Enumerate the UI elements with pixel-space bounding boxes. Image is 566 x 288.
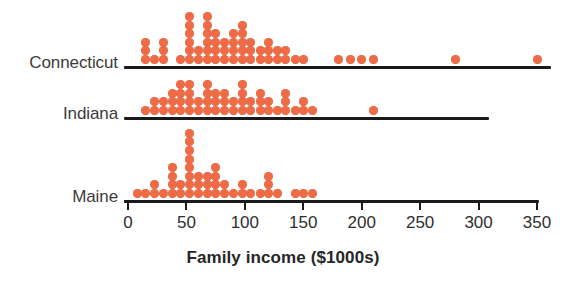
data-point [308, 106, 317, 115]
data-point [281, 46, 290, 55]
data-point [246, 97, 255, 106]
row-label-connecticut: Connecticut [29, 53, 118, 73]
axis-line-connecticut [124, 66, 551, 69]
data-point [159, 189, 168, 198]
x-tick [361, 202, 363, 210]
data-point [281, 55, 290, 64]
data-point [281, 89, 290, 98]
x-tick-label: 150 [289, 213, 317, 233]
x-tick-label: 250 [406, 213, 434, 233]
data-point [211, 180, 220, 189]
data-point [238, 21, 247, 30]
axis-line-indiana [124, 117, 489, 120]
data-point [229, 97, 238, 106]
data-point [264, 55, 273, 64]
data-point [264, 189, 273, 198]
data-point [203, 12, 212, 21]
data-point [185, 137, 194, 146]
data-point [220, 180, 229, 189]
data-point [141, 46, 150, 55]
data-point [185, 89, 194, 98]
data-point [264, 180, 273, 189]
data-point [246, 106, 255, 115]
x-tick-label: 300 [464, 213, 492, 233]
data-point [185, 38, 194, 47]
data-point [168, 172, 177, 181]
data-point [246, 46, 255, 55]
data-point [264, 172, 273, 181]
data-point [185, 29, 194, 38]
x-tick [302, 202, 304, 210]
data-point [168, 163, 177, 172]
data-point [334, 55, 343, 64]
x-tick-label: 100 [231, 213, 259, 233]
data-point [194, 106, 203, 115]
data-point [357, 55, 366, 64]
data-point [176, 180, 185, 189]
data-point [176, 97, 185, 106]
x-tick-label: 200 [348, 213, 376, 233]
data-point [176, 55, 185, 64]
data-point [238, 89, 247, 98]
data-point [194, 180, 203, 189]
data-point [211, 89, 220, 98]
data-point [211, 163, 220, 172]
data-point [211, 172, 220, 181]
x-axis-title: Family income ($1000s) [0, 248, 566, 268]
data-point [176, 89, 185, 98]
data-point [185, 21, 194, 30]
data-point [246, 189, 255, 198]
data-point [229, 106, 238, 115]
x-tick-label: 0 [123, 213, 132, 233]
x-tick [536, 202, 538, 210]
dot-plot-chart: Family income ($1000s) ConnecticutIndian… [0, 0, 566, 288]
x-tick-label: 50 [177, 213, 196, 233]
data-point [194, 97, 203, 106]
row-label-maine: Maine [72, 187, 118, 207]
data-point [264, 97, 273, 106]
data-point [141, 38, 150, 47]
data-point [229, 38, 238, 47]
data-point [185, 163, 194, 172]
x-tick [478, 202, 480, 210]
data-point [273, 189, 282, 198]
data-point [211, 189, 220, 198]
data-point [194, 55, 203, 64]
data-point [299, 189, 308, 198]
data-point [185, 12, 194, 21]
data-point [281, 97, 290, 106]
data-point [211, 29, 220, 38]
data-point [246, 38, 255, 47]
data-point [159, 38, 168, 47]
data-point [264, 38, 273, 47]
data-point [141, 55, 150, 64]
data-point [203, 80, 212, 89]
data-point [141, 189, 150, 198]
data-point [299, 106, 308, 115]
x-tick [127, 202, 129, 210]
data-point [264, 106, 273, 115]
data-point [176, 106, 185, 115]
x-tick [185, 202, 187, 210]
data-point [346, 55, 355, 64]
data-point [451, 55, 460, 64]
data-point [211, 38, 220, 47]
data-point [159, 55, 168, 64]
x-tick [419, 202, 421, 210]
data-point [203, 21, 212, 30]
data-point [308, 189, 317, 198]
data-point [194, 172, 203, 181]
data-point [229, 29, 238, 38]
data-point [299, 97, 308, 106]
data-point [246, 55, 255, 64]
data-point [141, 106, 150, 115]
data-point [369, 55, 378, 64]
data-point [229, 55, 238, 64]
data-point [281, 106, 290, 115]
data-point [185, 155, 194, 164]
data-point [220, 89, 229, 98]
data-point [176, 189, 185, 198]
data-point [299, 55, 308, 64]
data-point [211, 46, 220, 55]
data-point [150, 180, 159, 189]
